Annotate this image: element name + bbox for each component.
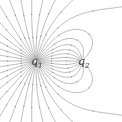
field-line <box>38 57 80 60</box>
charge-label-q2: q2 <box>78 56 90 70</box>
charge-label-q1: q1 <box>31 56 43 70</box>
q1-subscript: 1 <box>38 62 42 70</box>
field-lines <box>0 0 122 122</box>
arrow-icon <box>66 57 67 59</box>
q2-subscript: 2 <box>85 62 89 70</box>
field-line <box>0 62 34 83</box>
q2-symbol: q <box>78 55 85 68</box>
arrow-icon <box>31 107 33 108</box>
arrow-icon <box>66 60 67 62</box>
arrow-icon <box>32 84 34 85</box>
arrow-icon <box>20 60 21 62</box>
arrow-icon <box>51 60 52 62</box>
field-line <box>37 39 83 60</box>
arrow-icon <box>31 14 33 15</box>
arrow-icon <box>66 64 67 66</box>
field-line <box>37 62 83 83</box>
arrow-icon <box>36 36 38 37</box>
arrow-icon <box>36 84 38 85</box>
field-line-diagram: q1 q2 <box>0 0 122 122</box>
arrow-icon <box>32 36 34 37</box>
field-line <box>38 61 80 64</box>
field-line <box>20 0 35 59</box>
q1-symbol: q <box>31 55 38 68</box>
field-line <box>0 39 34 60</box>
arrow-icon <box>6 60 7 62</box>
field-line <box>20 63 35 122</box>
